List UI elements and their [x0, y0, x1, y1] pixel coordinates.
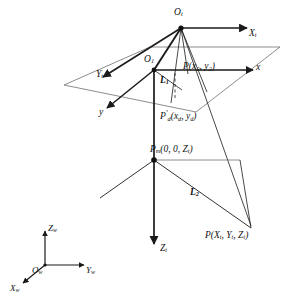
label-axis-y: y [99, 108, 103, 118]
label-axis-Xt: Xt [249, 29, 257, 39]
label-axis-x: x [256, 63, 260, 73]
diagram-canvas [0, 0, 293, 300]
ray-Ot-edge [181, 28, 207, 92]
dot-O1 [152, 68, 157, 73]
dot-Pm [151, 157, 157, 163]
label-world-Xw: Xw [10, 284, 19, 294]
label-world-Yw: Yw [86, 266, 95, 276]
dot-Ow [43, 263, 46, 266]
ray-Ot-Pd [171, 28, 181, 103]
ray-L2-line [154, 160, 251, 228]
label-point-P2: P(x₂, y₂) [183, 62, 215, 72]
rays-from-Pm [100, 160, 251, 228]
label-origin-target: Ot [174, 8, 183, 18]
projection-rays-from-Ot [171, 28, 251, 226]
Ot-to-O1-segment [154, 28, 181, 70]
label-axis-Yt: Yt [96, 70, 103, 80]
label-world-origin: Ow [32, 266, 42, 276]
image-plane-outline [64, 47, 280, 112]
label-origin-image: O1 [144, 55, 154, 65]
label-axis-Zt: Zt [160, 244, 167, 254]
label-point-P3: P(Xt, Yt, Zt) [205, 231, 248, 241]
label-point-Pm: Pm(0, 0, Zt) [150, 145, 193, 155]
label-ray-L1: L1 [160, 76, 169, 86]
segment-right-edge [240, 160, 251, 228]
ray-Pm-left [100, 160, 154, 198]
label-ray-L2: L2 [190, 188, 199, 198]
figure-root: Ot Xt Yt O1 x y L1 P(x₂, y₂) P′d(xd, yd)… [0, 0, 293, 300]
label-point-Pd: P′d(xd, yd) [160, 110, 197, 122]
label-world-Zw: Zw [48, 224, 57, 234]
dot-Ot [178, 25, 183, 30]
